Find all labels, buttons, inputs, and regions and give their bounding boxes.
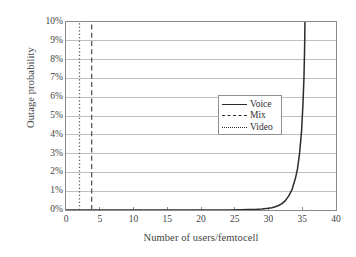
legend-label: Video <box>247 122 273 132</box>
y-tick-label: 4% <box>23 130 63 140</box>
legend-label: Voice <box>247 99 271 109</box>
y-tick-label: 1% <box>23 186 63 196</box>
chart-figure: Outage probability 0%1%2%3%4%5%6%7%8%9%1… <box>0 0 356 257</box>
y-tick-label: 2% <box>23 167 63 177</box>
legend-swatch-icon <box>222 122 247 132</box>
legend-item-video: Video <box>222 121 278 133</box>
y-tick-label: 3% <box>23 149 63 159</box>
y-tick-label: 7% <box>23 73 63 83</box>
gridlines <box>66 41 336 191</box>
y-tick-label: 5% <box>23 111 63 121</box>
legend-label: Mix <box>247 110 266 120</box>
x-tick-label: 40 <box>316 214 356 224</box>
y-tick-label: 8% <box>23 55 63 65</box>
legend-item-voice: Voice <box>222 98 278 110</box>
legend-item-mix: Mix <box>222 110 278 122</box>
y-tick-label: 10% <box>23 17 63 27</box>
y-tick-label: 6% <box>23 92 63 102</box>
x-axis-title: Number of users/femtocell <box>65 232 337 243</box>
chart-legend: VoiceMixVideo <box>218 95 282 135</box>
plot-area: VoiceMixVideo <box>65 21 337 211</box>
y-tick-label: 9% <box>23 36 63 46</box>
legend-swatch-icon <box>222 110 247 120</box>
legend-swatch-icon <box>222 99 247 109</box>
plot-canvas <box>66 22 336 210</box>
